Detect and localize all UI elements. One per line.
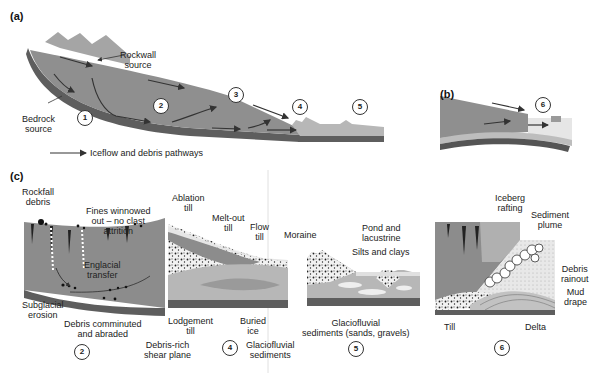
label-lodgement-till: Lodgementtill bbox=[168, 316, 213, 336]
zone-3-marker: 3 bbox=[228, 87, 244, 103]
panel-b-diagram bbox=[440, 96, 572, 152]
label-ablation-till: Ablationtill bbox=[172, 193, 205, 213]
label-bedrock-source: Bedrocksource bbox=[22, 114, 55, 134]
section-6-diagram bbox=[435, 222, 555, 315]
zone-6-marker-b: 6 bbox=[535, 97, 551, 113]
label-mud-drape: Muddrape bbox=[564, 287, 587, 307]
panel-b-label: (b) bbox=[440, 88, 454, 100]
label-englacial-transfer: Englacialtransfer bbox=[84, 260, 121, 280]
section-4-diagram bbox=[168, 224, 288, 308]
label-fines-winnowed: Fines winnowedout – no clastattrition bbox=[86, 206, 151, 236]
zone-5-marker-c: 5 bbox=[348, 341, 364, 357]
section-5-diagram bbox=[307, 250, 420, 306]
proglacial-bedrock bbox=[298, 136, 384, 142]
zone-1-marker: 1 bbox=[77, 110, 93, 126]
label-sediment-plume: Sedimentplume bbox=[531, 210, 569, 230]
zone-2-marker-c: 2 bbox=[74, 344, 90, 360]
panel-a-diagram bbox=[26, 32, 384, 153]
label-glaciofluvial-sediments-5: Glaciofluvialsediments (sands, gravels) bbox=[302, 318, 410, 338]
label-pond-lacustrine: Pond andlacustrine bbox=[362, 223, 401, 243]
panel-c-label: (c) bbox=[10, 170, 23, 182]
label-debris-comminuted: Debris comminutedand abraded bbox=[64, 319, 142, 339]
label-buried-ice: Buriedice bbox=[240, 316, 266, 336]
label-till: Till bbox=[444, 322, 455, 332]
zone-4-marker: 4 bbox=[292, 99, 308, 115]
zone-4-marker-c: 4 bbox=[222, 340, 238, 356]
panel-a-label: (a) bbox=[10, 10, 23, 22]
zone-6-marker-c: 6 bbox=[494, 340, 510, 356]
label-debris-rainout: Debrisrainout bbox=[561, 264, 589, 284]
zone-5-marker: 5 bbox=[352, 99, 368, 115]
label-rockfall-debris: Rockfalldebris bbox=[22, 187, 54, 207]
label-rockwall-source: Rockwallsource bbox=[120, 50, 156, 70]
iceberg bbox=[551, 116, 561, 122]
label-flow-till: Flowtill bbox=[250, 222, 269, 242]
glacier-body bbox=[30, 50, 300, 135]
label-delta: Delta bbox=[525, 322, 546, 332]
label-glaciofluvial-sediments-4: Glaciofluvialsediments bbox=[246, 340, 295, 360]
label-iceberg-rafting: Icebergrafting bbox=[495, 193, 525, 213]
legend-label: Iceflow and debris pathways bbox=[90, 148, 203, 158]
label-debris-rich-shear-plane: Debris-richshear plane bbox=[144, 340, 191, 360]
proglacial-sediment bbox=[292, 117, 384, 137]
label-silts-clays: Silts and clays bbox=[352, 247, 410, 257]
tidewater-glacier bbox=[440, 96, 528, 138]
label-meltout-till: Melt-outtill bbox=[212, 213, 245, 233]
zone-2-marker: 2 bbox=[153, 98, 169, 114]
label-moraine: Moraine bbox=[284, 230, 317, 240]
label-subglacial-erosion: Subglacialerosion bbox=[22, 300, 64, 320]
